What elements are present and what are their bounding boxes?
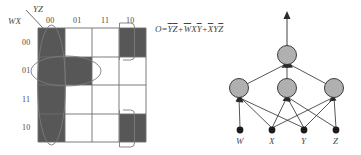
hidden-node-2[interactable] — [278, 79, 297, 98]
hidden-node-3[interactable] — [325, 79, 344, 98]
kmap-cell-r2-c0 — [38, 85, 65, 114]
boolean-equation: O=YZ+WXY+XYZ — [155, 24, 223, 34]
network-graph — [215, 0, 361, 155]
input-node-x[interactable] — [269, 127, 276, 134]
term-2: WXY — [184, 24, 202, 34]
neural-network-diagram: W X Y Z — [215, 0, 361, 155]
output-node[interactable] — [278, 46, 297, 65]
term-1: YZ — [168, 24, 178, 34]
kmap-cell-r3-c3 — [119, 114, 146, 142]
input-label-z: Z — [333, 136, 338, 146]
input-label-w: W — [236, 136, 244, 146]
kmap-cell-r1-c1 — [65, 57, 92, 85]
figure-canvas: YZ WX 00 01 11 10 00 01 11 10 — [0, 0, 361, 155]
hidden-node-1[interactable] — [230, 79, 249, 98]
network-edges-input-hidden — [239, 97, 336, 128]
karnaugh-map: YZ WX 00 01 11 10 00 01 11 10 — [0, 0, 150, 155]
input-node-y[interactable] — [301, 127, 308, 134]
kmap-grid — [0, 0, 150, 155]
input-label-x: X — [269, 136, 275, 146]
network-output-arrow-head — [284, 11, 291, 19]
input-node-w[interactable] — [237, 127, 244, 134]
input-node-z[interactable] — [333, 127, 340, 134]
kmap-cell-r1-c0 — [38, 57, 65, 85]
input-label-y: Y — [301, 136, 306, 146]
kmap-cell-r0-c3 — [119, 28, 146, 57]
